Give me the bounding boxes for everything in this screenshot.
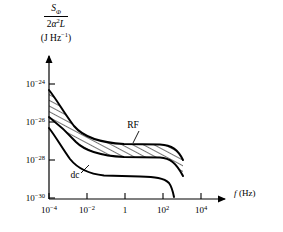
x-tick-label-1: 1 — [123, 205, 128, 215]
x-axis-unit: (Hz) — [239, 188, 256, 198]
x-axis-symbol: f — [234, 188, 238, 198]
x-tick-label-1e2: 102 — [157, 204, 169, 216]
x-axis-label: f(Hz) — [234, 188, 256, 198]
y-tick-label-1e-28: 10−28 — [26, 154, 45, 166]
dc-label: dc — [71, 170, 80, 180]
rf-leader-line — [133, 131, 139, 143]
y-tick-label-1e-30: 10−30 — [26, 192, 45, 204]
x-axis-tick-labels: 10−4 10−2 1 102 104 — [41, 204, 208, 216]
x-tick-label-1e-2: 10−2 — [79, 204, 95, 216]
y-tick-label-1e-26: 10−26 — [26, 116, 46, 128]
y-axis-tick-labels: 10−24 10−26 10−28 10−30 — [26, 78, 46, 204]
rf-band-hatch — [40, 80, 200, 190]
plot-area: RF dc 10−24 10−26 10−28 10−30 10−4 10−2 … — [0, 0, 283, 232]
x-tick-label-1e4: 104 — [195, 204, 208, 216]
y-tick-label-1e-24: 10−24 — [26, 78, 46, 90]
x-tick-label-1e-4: 10−4 — [41, 204, 58, 216]
x-axis-ticks — [49, 193, 201, 199]
figure-container: SΦ 2α2L (J Hz−1) — [0, 0, 283, 232]
rf-label: RF — [127, 120, 139, 130]
dc-curve — [49, 128, 174, 197]
